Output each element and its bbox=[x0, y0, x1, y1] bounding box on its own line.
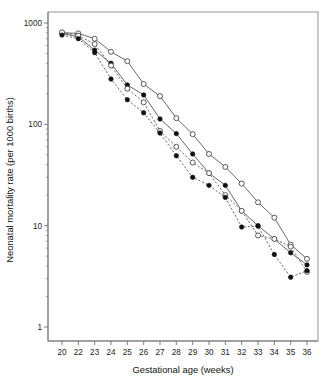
data-point-marker bbox=[207, 183, 211, 187]
data-point-marker bbox=[190, 152, 194, 156]
data-point-marker bbox=[109, 49, 114, 54]
x-tick-label: 23 bbox=[90, 348, 100, 357]
y-tick-label: 100 bbox=[28, 120, 42, 129]
x-tick-label: 34 bbox=[270, 348, 280, 357]
data-point-marker bbox=[174, 131, 178, 135]
x-axis-title: Gestational age (weeks) bbox=[132, 364, 233, 375]
data-point-marker bbox=[76, 37, 80, 41]
data-point-marker bbox=[141, 111, 145, 115]
data-point-marker bbox=[190, 160, 195, 165]
data-point-marker bbox=[256, 224, 260, 228]
chart-figure: 1000100101 20222324252627282930313233343… bbox=[0, 0, 330, 385]
y-tick-label: 10 bbox=[33, 222, 43, 231]
data-point-marker bbox=[272, 236, 277, 241]
data-point-marker bbox=[92, 42, 97, 47]
x-tick-label: 32 bbox=[237, 348, 247, 357]
data-point-marker bbox=[272, 252, 276, 256]
data-point-marker bbox=[109, 77, 113, 81]
x-tick-label: 30 bbox=[204, 348, 214, 357]
data-point-marker bbox=[223, 183, 227, 187]
y-tick-label: 1000 bbox=[24, 19, 43, 28]
x-tick-label: 25 bbox=[123, 348, 133, 357]
data-point-marker bbox=[60, 33, 64, 37]
data-point-marker bbox=[223, 164, 228, 169]
data-point-marker bbox=[256, 200, 261, 205]
data-point-marker bbox=[174, 144, 179, 149]
data-point-marker bbox=[125, 98, 129, 102]
x-tick-label: 31 bbox=[221, 348, 231, 357]
data-point-marker bbox=[239, 225, 243, 229]
data-point-marker bbox=[207, 151, 212, 156]
data-point-marker bbox=[174, 116, 179, 121]
x-tick-label: 35 bbox=[286, 348, 296, 357]
data-point-marker bbox=[158, 131, 162, 135]
data-point-marker bbox=[109, 63, 114, 68]
x-tick-label: 29 bbox=[188, 348, 198, 357]
x-tick-label: 27 bbox=[155, 348, 165, 357]
y-tick-label: 1 bbox=[37, 323, 42, 332]
data-point-marker bbox=[141, 100, 146, 105]
x-tick-label: 28 bbox=[172, 348, 182, 357]
data-point-marker bbox=[158, 117, 162, 121]
data-point-marker bbox=[125, 59, 130, 64]
data-point-marker bbox=[288, 244, 293, 249]
x-tick-label: 33 bbox=[253, 348, 263, 357]
x-tick-label: 22 bbox=[74, 348, 84, 357]
x-tick-label: 24 bbox=[106, 348, 116, 357]
data-point-marker bbox=[125, 86, 130, 91]
x-tick-label: 36 bbox=[302, 348, 312, 357]
data-point-marker bbox=[305, 263, 309, 267]
y-axis-title: Neonatal mortality rate (per 1000 births… bbox=[4, 97, 15, 263]
data-point-marker bbox=[288, 275, 292, 279]
data-point-marker bbox=[190, 132, 195, 137]
data-point-marker bbox=[272, 215, 277, 220]
data-point-marker bbox=[288, 251, 292, 255]
x-tick-label: 26 bbox=[139, 348, 149, 357]
chart-svg: 1000100101 20222324252627282930313233343… bbox=[0, 0, 330, 385]
chart-background bbox=[0, 0, 330, 385]
data-point-marker bbox=[92, 36, 97, 41]
data-point-marker bbox=[141, 93, 145, 97]
x-tick-label: 20 bbox=[57, 348, 67, 357]
data-point-marker bbox=[141, 82, 146, 87]
data-point-marker bbox=[256, 233, 261, 238]
data-point-marker bbox=[174, 154, 178, 158]
data-point-marker bbox=[223, 195, 227, 199]
data-point-marker bbox=[239, 208, 244, 213]
data-point-marker bbox=[207, 171, 212, 176]
data-point-marker bbox=[305, 268, 309, 272]
data-point-marker bbox=[305, 256, 310, 261]
data-point-marker bbox=[92, 50, 96, 54]
data-point-marker bbox=[239, 181, 244, 186]
data-point-marker bbox=[158, 94, 163, 99]
data-point-marker bbox=[190, 175, 194, 179]
